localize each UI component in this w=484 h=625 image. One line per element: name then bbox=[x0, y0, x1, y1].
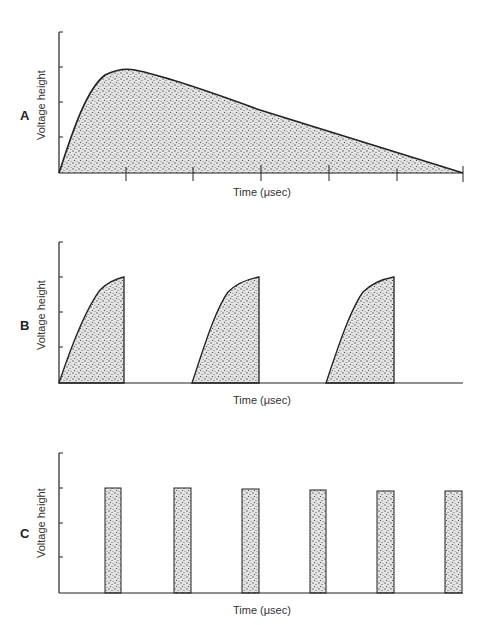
y-axis-label-b: Voltage height bbox=[35, 280, 47, 350]
panel-letter-b: B bbox=[20, 318, 29, 333]
pulse-c-6 bbox=[445, 491, 462, 593]
y-axis-label-a: Voltage height bbox=[35, 70, 47, 140]
pulse-b-1 bbox=[59, 277, 124, 383]
pulse-diagram bbox=[0, 0, 484, 625]
pulse-b-2 bbox=[192, 277, 259, 383]
pulse-c-5 bbox=[377, 491, 394, 593]
panel-b bbox=[59, 242, 463, 383]
panel-letter-a: A bbox=[20, 108, 29, 123]
panel-a bbox=[59, 32, 463, 182]
x-axis-label-b: Time (μsec) bbox=[233, 394, 291, 406]
pulse-a-area bbox=[59, 69, 463, 173]
panel-letter-c: C bbox=[20, 526, 29, 541]
pulse-c-3 bbox=[242, 489, 259, 593]
x-axis-label-c: Time (μsec) bbox=[233, 604, 291, 616]
panel-c bbox=[59, 453, 463, 593]
y-axis-label-c: Voltage height bbox=[35, 488, 47, 558]
pulse-b-3 bbox=[326, 277, 394, 383]
pulse-c-2 bbox=[174, 488, 191, 593]
pulse-c-4 bbox=[310, 490, 326, 593]
pulse-c-1 bbox=[105, 488, 121, 593]
x-axis-label-a: Time (μsec) bbox=[233, 186, 291, 198]
